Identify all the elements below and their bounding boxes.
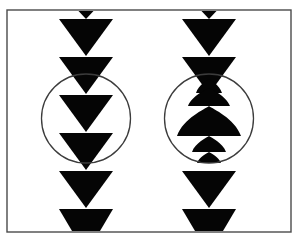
illusion-figure-svg xyxy=(0,0,298,238)
figure-container xyxy=(0,0,298,238)
